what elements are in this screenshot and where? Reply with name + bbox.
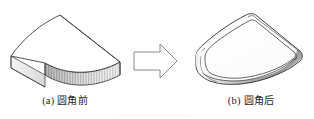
shape-before-fillet bbox=[11, 15, 120, 87]
caption-b-tag: (b) bbox=[228, 95, 241, 106]
bottom-artifact-rule bbox=[118, 115, 190, 116]
caption-panel-b: (b) 圆角后 bbox=[186, 95, 314, 107]
figure-root: (a) 圆角前 (b) 圆角后 bbox=[0, 0, 314, 119]
arrow-right-icon bbox=[134, 44, 177, 78]
caption-panel-a: (a) 圆角前 bbox=[0, 95, 130, 107]
shape-after-fillet bbox=[196, 14, 303, 85]
transition-arrow bbox=[134, 44, 177, 78]
caption-a-tag: (a) bbox=[42, 95, 54, 106]
shape-a-top-face bbox=[11, 15, 120, 72]
caption-a-label: 圆角前 bbox=[57, 95, 88, 106]
caption-b-label: 圆角后 bbox=[244, 95, 275, 106]
